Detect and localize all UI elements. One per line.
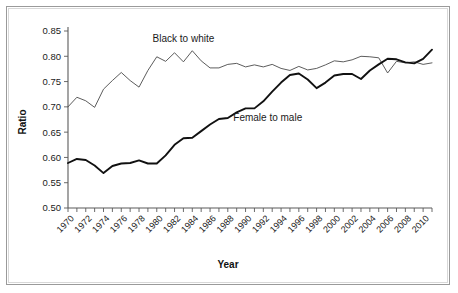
- line-chart: 0.500.550.600.650.700.750.800.85 1970197…: [0, 0, 458, 293]
- x-axis-tick-label: 2010: [410, 213, 431, 234]
- y-axis-tick-label: 0.65: [43, 127, 62, 138]
- y-axis: 0.500.550.600.650.700.750.800.85: [43, 25, 69, 213]
- x-axis-tick-label: 2006: [374, 213, 395, 234]
- x-axis-tick-label: 1976: [108, 213, 129, 234]
- y-axis-tick-label: 0.55: [43, 177, 62, 188]
- series-annotation-black-to-white: Black to white: [153, 33, 215, 44]
- x-axis-tick-label: 1970: [55, 213, 76, 234]
- y-axis-tick-label: 0.85: [43, 25, 62, 36]
- x-axis: 1970197219741976197819801982198419861988…: [55, 208, 432, 235]
- x-axis-tick-label: 1984: [179, 213, 200, 234]
- x-axis-tick-label: 1972: [72, 213, 93, 234]
- x-axis-tick-label: 2000: [321, 213, 342, 234]
- series-line-black-to-white: [68, 51, 432, 108]
- x-axis-tick-label: 1998: [303, 213, 324, 234]
- x-axis-tick-label: 1982: [161, 213, 182, 234]
- y-axis-tick-label: 0.80: [43, 51, 62, 62]
- x-axis-tick-label: 1974: [90, 213, 111, 234]
- series-annotation-female-to-male: Female to male: [233, 112, 302, 123]
- x-axis-tick-label: 1996: [286, 213, 307, 234]
- x-axis-tick-label: 1992: [250, 213, 271, 234]
- y-axis-tick-label: 0.75: [43, 76, 62, 87]
- x-axis-tick-label: 2002: [339, 213, 360, 234]
- x-axis-tick-label: 2008: [392, 213, 413, 234]
- x-axis-tick-label: 1980: [143, 213, 164, 234]
- x-axis-tick-label: 1986: [197, 213, 218, 234]
- x-axis-tick-label: 1978: [126, 213, 147, 234]
- x-axis-tick-label: 1994: [268, 213, 289, 234]
- y-axis-tick-label: 0.50: [43, 202, 62, 213]
- chart-container: 0.500.550.600.650.700.750.800.85 1970197…: [0, 0, 458, 293]
- y-axis-tick-label: 0.60: [43, 152, 62, 163]
- y-axis-tick-label: 0.70: [43, 101, 62, 112]
- x-axis-tick-label: 1990: [232, 213, 253, 234]
- y-axis-title: Ratio: [17, 110, 28, 135]
- x-axis-tick-label: 2004: [357, 213, 378, 234]
- series-annotations: Black to whiteFemale to male: [153, 33, 303, 123]
- x-axis-title: Year: [217, 259, 238, 270]
- x-axis-tick-label: 1988: [214, 213, 235, 234]
